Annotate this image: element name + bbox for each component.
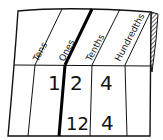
place-value-chart: Tens Ones Tenths Hundredths 1 2 4 12 4 <box>0 0 163 140</box>
row2-tenths: 12 <box>66 113 89 134</box>
row1-ones: 1 <box>48 71 61 95</box>
row1-tenths: 2 <box>70 71 83 95</box>
row1-hundredths: 4 <box>100 71 113 95</box>
row2-hundredths: 4 <box>101 111 114 135</box>
